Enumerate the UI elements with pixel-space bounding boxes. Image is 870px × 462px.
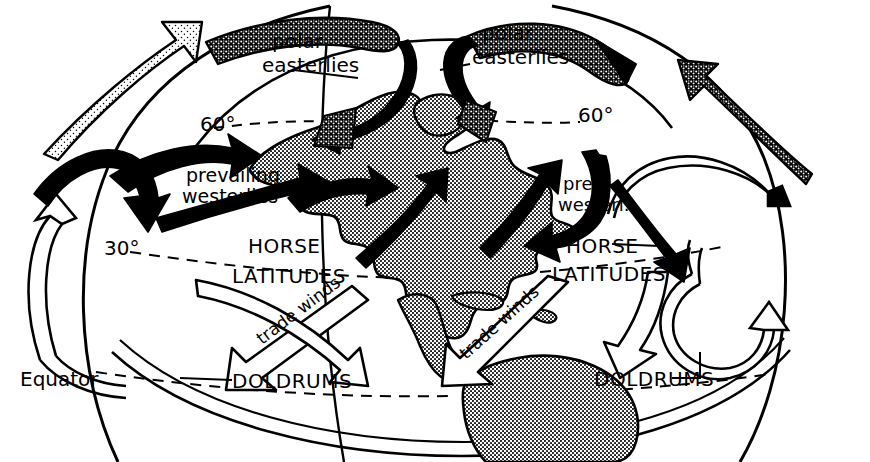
- label-lat60-left: 60°: [200, 112, 235, 136]
- label-prevailing-westerlies-line1: prevailing: [186, 164, 280, 186]
- label-horse-left: HORSE: [248, 234, 321, 258]
- label-horse-right: HORSE: [566, 234, 639, 258]
- label-polar-easterlies-right-line1: polar: [482, 21, 534, 45]
- label-polar-easterlies-right-line2: easterlies: [472, 45, 569, 69]
- figure-canvas: polar easterlies polar easterlies 60° 60…: [0, 0, 870, 462]
- label-latitudes-right: LATITUDES: [552, 262, 666, 286]
- label-lat30-left: 30°: [104, 236, 139, 260]
- label-doldrums-right: DOLDRUMS: [594, 367, 714, 391]
- label-lat60-right: 60°: [578, 103, 613, 127]
- circulation-diagram: polar easterlies polar easterlies 60° 60…: [0, 0, 870, 462]
- label-prev-westerl-line1: prev.: [563, 173, 607, 194]
- label-prev-westerl-line2: westerl.: [558, 194, 629, 215]
- label-polar-easterlies-left-line1: polar: [272, 29, 324, 53]
- label-doldrums-left: DOLDRUMS: [232, 369, 352, 393]
- label-polar-easterlies-left-line2: easterlies: [262, 53, 359, 77]
- label-equator: Equator: [20, 367, 99, 391]
- label-prevailing-westerlies-line2: westerlies: [182, 185, 278, 207]
